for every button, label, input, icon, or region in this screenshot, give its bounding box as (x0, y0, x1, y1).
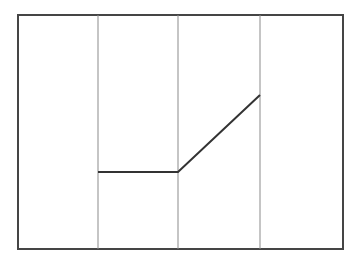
outer-frame (18, 15, 343, 249)
diagram-canvas (0, 0, 358, 258)
signal-path (98, 95, 260, 172)
diagram-stage (0, 0, 358, 258)
